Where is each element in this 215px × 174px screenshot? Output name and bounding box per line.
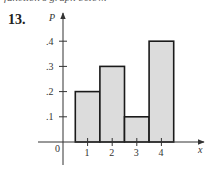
histogram-bar [149, 41, 174, 142]
histogram-bars [75, 41, 173, 142]
y-tick-label: .1 [46, 111, 54, 122]
x-tick-label: 1 [85, 147, 90, 158]
origin-label: 0 [55, 143, 60, 154]
x-tick-label: 3 [134, 147, 139, 158]
y-tick-label: .4 [46, 36, 54, 47]
y-tick-label: .3 [46, 61, 54, 72]
y-axis-ticks: .1.2.3.4 [46, 36, 67, 123]
probability-histogram: .1.2.3.4 1234 P x 0 [0, 0, 215, 174]
y-tick-label: .2 [46, 86, 54, 97]
x-axis-label: x [197, 144, 203, 155]
y-axis-label: P [48, 12, 55, 23]
x-tick-label: 4 [158, 147, 163, 158]
histogram-bar [100, 66, 125, 142]
x-tick-label: 2 [109, 147, 114, 158]
histogram-bar [75, 92, 100, 142]
